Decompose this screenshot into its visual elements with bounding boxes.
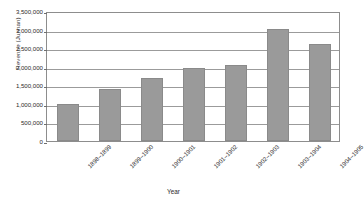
bar: [183, 68, 205, 141]
bar: [225, 65, 247, 141]
x-axis-tick-label: 1902–1903: [254, 143, 281, 170]
y-axis-tick-label: 1,500,000: [8, 83, 43, 89]
y-axis-tick-label: 2,000,000: [8, 65, 43, 71]
y-axis-tick-label: 1,000,000: [8, 102, 43, 108]
y-axis-tick-label-group: 0500,0001,000,0001,500,0002,000,0002,500…: [8, 12, 43, 142]
x-axis-tick-label: 1901–1902: [212, 143, 239, 170]
x-axis-tick-label: 1899–1900: [128, 143, 155, 170]
x-axis-tick-label: 1898–1899: [86, 143, 113, 170]
bar: [99, 89, 121, 141]
y-axis-tick-label: 500,000: [8, 120, 43, 126]
bar: [57, 104, 79, 141]
bar: [141, 78, 163, 141]
x-axis-tick-label: 1903–1904: [296, 143, 323, 170]
y-axis-tick-label: 2,500,000: [8, 46, 43, 52]
y-axis-tick-label: 3,500,000: [8, 9, 43, 15]
plot-area: [46, 12, 340, 142]
y-axis-tick-label: 3,000,000: [8, 28, 43, 34]
y-axis-tick-label: 0: [8, 139, 43, 145]
bar: [267, 29, 289, 141]
x-axis-tick-label: 1904–1905: [338, 143, 364, 170]
x-axis-title: Year: [0, 188, 347, 195]
bars-layer: [47, 13, 339, 141]
x-axis-tick-label-group: 1898–18991899–19001900–19011901–19021902…: [46, 143, 340, 185]
x-axis-tick-label: 1900–1901: [170, 143, 197, 170]
bar: [309, 44, 331, 141]
